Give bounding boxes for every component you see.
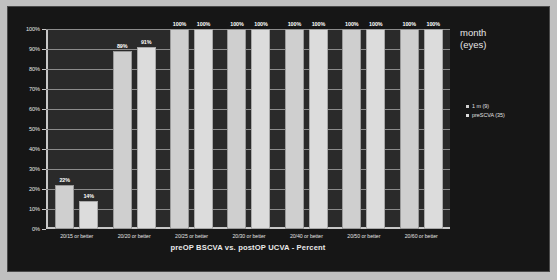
y-axis-tick bbox=[42, 229, 46, 230]
y-axis-tick-label: 40% bbox=[29, 146, 40, 152]
bar-value-label: 89% bbox=[117, 43, 128, 49]
y-axis-tick-label: 30% bbox=[29, 166, 40, 172]
bar-group: 100%100% bbox=[278, 29, 335, 229]
bar[interactable] bbox=[424, 29, 443, 229]
bar-group: 100%100% bbox=[393, 29, 450, 229]
y-axis-tick bbox=[42, 89, 46, 90]
bar-slot: 100% bbox=[285, 29, 304, 229]
y-axis-tick bbox=[42, 69, 46, 70]
bar[interactable] bbox=[342, 29, 361, 229]
bar[interactable] bbox=[285, 29, 304, 229]
bar-slot: 100% bbox=[400, 29, 419, 229]
bar-group: 89%91% bbox=[105, 29, 162, 229]
legend-item-label: preSCVA (35) bbox=[472, 112, 505, 118]
y-axis-tick-label: 20% bbox=[29, 186, 40, 192]
chart-screenshot: 0%10%20%30%40%50%60%70%80%90%100% 22%14%… bbox=[0, 0, 557, 280]
bar[interactable] bbox=[194, 29, 213, 229]
y-axis-tick bbox=[42, 129, 46, 130]
x-axis-title: preOP BSCVA vs. postOP UCVA - Percent bbox=[46, 243, 450, 252]
legend-swatch-icon bbox=[466, 114, 469, 117]
y-axis-tick-label: 70% bbox=[29, 86, 40, 92]
y-axis-tick-label: 50% bbox=[29, 126, 40, 132]
legend-entries: 1 m (9)preSCVA (35) bbox=[466, 103, 505, 121]
x-axis-category-label: 20/50 or better bbox=[335, 231, 392, 242]
bar-slot: 100% bbox=[251, 29, 270, 229]
bar[interactable] bbox=[113, 51, 132, 229]
legend: month (eyes) 1 m (9)preSCVA (35) bbox=[460, 27, 546, 137]
y-axis-tick-label: 90% bbox=[29, 46, 40, 52]
x-axis-category-label: 20/15 or better bbox=[48, 231, 105, 242]
y-axis-tick bbox=[42, 109, 46, 110]
legend-swatch-icon bbox=[466, 105, 469, 108]
x-axis-category-labels: 20/15 or better20/20 or better20/25 or b… bbox=[48, 231, 450, 242]
x-axis-category-label: 20/60 or better bbox=[393, 231, 450, 242]
bar[interactable] bbox=[170, 29, 189, 229]
bar-slot: 100% bbox=[424, 29, 443, 229]
bar[interactable] bbox=[309, 29, 328, 229]
bar-slot: 100% bbox=[309, 29, 328, 229]
bar-value-label: 100% bbox=[369, 21, 382, 27]
bar-value-label: 100% bbox=[288, 21, 301, 27]
bar-slot: 100% bbox=[342, 29, 361, 229]
legend-item-label: 1 m (9) bbox=[472, 103, 489, 109]
bar[interactable] bbox=[55, 185, 74, 229]
bar-slot: 100% bbox=[227, 29, 246, 229]
bar-slot: 100% bbox=[366, 29, 385, 229]
bar[interactable] bbox=[137, 47, 156, 229]
legend-item[interactable]: preSCVA (35) bbox=[466, 112, 505, 118]
bar-value-label: 14% bbox=[83, 193, 94, 199]
x-axis-category-label: 20/40 or better bbox=[278, 231, 335, 242]
bar-group: 100%100% bbox=[163, 29, 220, 229]
bar-value-label: 100% bbox=[254, 21, 267, 27]
bar[interactable] bbox=[227, 29, 246, 229]
bar[interactable] bbox=[251, 29, 270, 229]
y-axis-tick-label: 60% bbox=[29, 106, 40, 112]
bar-value-label: 100% bbox=[427, 21, 440, 27]
bar[interactable] bbox=[79, 201, 98, 229]
bar-value-label: 100% bbox=[173, 21, 186, 27]
y-axis-tick bbox=[42, 189, 46, 190]
bar-value-label: 100% bbox=[312, 21, 325, 27]
bar-group: 22%14% bbox=[48, 29, 105, 229]
legend-title-line-1: month bbox=[460, 27, 546, 39]
bar-value-label: 100% bbox=[197, 21, 210, 27]
bar-slot: 91% bbox=[137, 29, 156, 229]
bar-value-label: 100% bbox=[230, 21, 243, 27]
y-axis-tick bbox=[42, 169, 46, 170]
bar-slot: 14% bbox=[79, 29, 98, 229]
bar-slot: 100% bbox=[170, 29, 189, 229]
bar-slot: 22% bbox=[55, 29, 74, 229]
plot-area: 0%10%20%30%40%50%60%70%80%90%100% 22%14%… bbox=[46, 29, 450, 251]
y-axis-tick-label: 0% bbox=[32, 226, 40, 232]
y-axis-tick bbox=[42, 29, 46, 30]
bar-slot: 89% bbox=[113, 29, 132, 229]
bar-slot: 100% bbox=[194, 29, 213, 229]
bar-group: 100%100% bbox=[335, 29, 392, 229]
bar-value-label: 91% bbox=[141, 39, 152, 45]
y-axis-tick-label: 100% bbox=[26, 26, 40, 32]
x-axis-category-label: 20/20 or better bbox=[105, 231, 162, 242]
bar-groups: 22%14%89%91%100%100%100%100%100%100%100%… bbox=[48, 29, 450, 229]
y-axis-tick bbox=[42, 209, 46, 210]
y-axis-tick-label: 80% bbox=[29, 66, 40, 72]
x-axis-category-label: 20/25 or better bbox=[163, 231, 220, 242]
bar-value-label: 100% bbox=[345, 21, 358, 27]
x-axis-category-label: 20/30 or better bbox=[220, 231, 277, 242]
bar[interactable] bbox=[400, 29, 419, 229]
bar-group: 100%100% bbox=[220, 29, 277, 229]
y-axis-tick-label: 10% bbox=[29, 206, 40, 212]
bar[interactable] bbox=[366, 29, 385, 229]
legend-title-line-2: (eyes) bbox=[460, 39, 546, 51]
chart-panel: 0%10%20%30%40%50%60%70%80%90%100% 22%14%… bbox=[7, 6, 550, 272]
y-axis-tick bbox=[42, 149, 46, 150]
legend-item[interactable]: 1 m (9) bbox=[466, 103, 505, 109]
bar-value-label: 22% bbox=[59, 177, 70, 183]
y-axis-tick bbox=[42, 49, 46, 50]
bar-value-label: 100% bbox=[403, 21, 416, 27]
